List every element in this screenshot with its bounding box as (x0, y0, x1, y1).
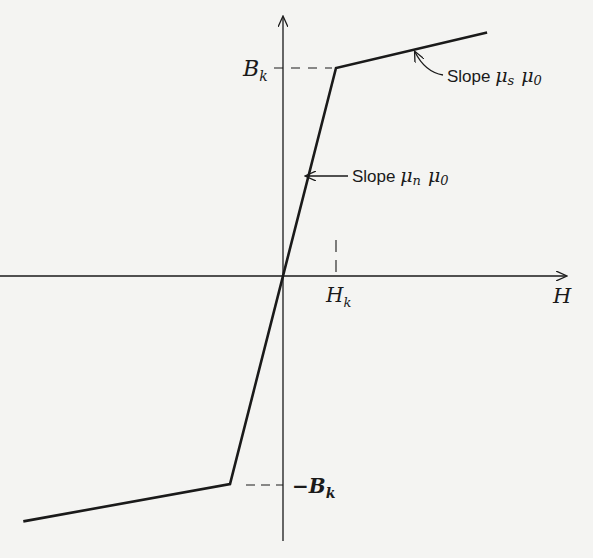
bh-curve (23, 33, 487, 522)
neg-bk-label: −Bk (292, 474, 336, 501)
slope-sat-leader (415, 52, 443, 75)
slope-normal-annotation: Slope μnμ0 (352, 164, 449, 188)
bk-label: Bk (242, 56, 268, 84)
slope-sat-annotation: Slope μsμ0 (447, 64, 542, 88)
h-axis-label: H (552, 284, 572, 308)
hk-label: Hk (325, 283, 351, 310)
bh-diagram: Bk −Bk Hk H Slope μsμ0 Slope μnμ0 (0, 0, 593, 558)
